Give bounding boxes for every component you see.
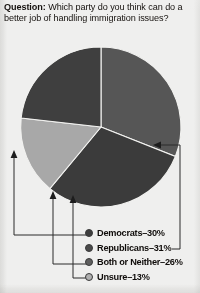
leader-arrowheads [11, 142, 161, 203]
legend: Democrats–30% Republicans–31% Both or Ne… [85, 226, 200, 284]
arrowhead-republicans [153, 142, 161, 149]
legend-label-both-or-neither: Both or Neither–26% [97, 257, 183, 267]
legend-item-democrats[interactable]: Democrats–30% [85, 226, 200, 241]
leader-line-democrats [14, 155, 88, 235]
legend-label-unsure: Unsure–13% [97, 272, 150, 282]
legend-swatch-republicans [85, 244, 93, 252]
legend-swatch-democrats [85, 229, 93, 237]
arrowhead-democrats [11, 150, 18, 158]
legend-swatch-unsure [85, 273, 93, 281]
pie-chart-figure: Question: Which party do you think can d… [0, 0, 200, 293]
legend-label-democrats: Democrats–30% [97, 228, 165, 238]
arrowhead-both-or-neither [50, 191, 57, 199]
legend-swatch-both-or-neither [85, 258, 93, 266]
arrowhead-unsure [70, 195, 77, 203]
legend-item-both-or-neither[interactable]: Both or Neither–26% [85, 255, 200, 270]
legend-item-unsure[interactable]: Unsure–13% [85, 270, 200, 285]
legend-item-republicans[interactable]: Republicans–31% [85, 241, 200, 256]
legend-label-republicans: Republicans–31% [97, 243, 171, 253]
leader-line-both-or-neither [53, 196, 88, 264]
